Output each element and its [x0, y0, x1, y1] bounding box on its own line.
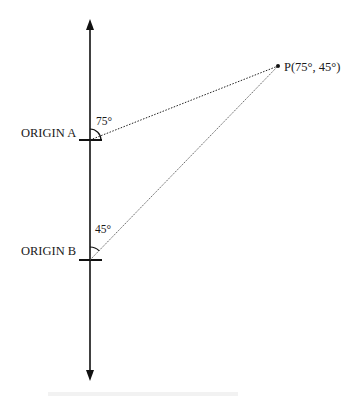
- sightline-a-to-p: [90, 66, 278, 140]
- point-p-dot: [276, 64, 280, 68]
- origin-a-angle-arc: [90, 129, 101, 140]
- arrow-down-icon: [86, 370, 94, 381]
- point-p: P(75°, 45°): [276, 60, 341, 74]
- faint-caption-remnant: [48, 392, 238, 396]
- sightline-b-to-p: [90, 66, 278, 260]
- origin-a-label: ORIGIN A: [21, 126, 76, 140]
- vertical-axis: [86, 19, 94, 381]
- origin-b: ORIGIN B 45°: [21, 223, 112, 260]
- origin-b-angle-arc: [90, 247, 99, 251]
- origin-a-angle-label: 75°: [96, 115, 113, 127]
- origin-b-angle-label: 45°: [95, 223, 112, 235]
- arrow-up-icon: [86, 19, 94, 30]
- bearing-diagram: ORIGIN A 75° ORIGIN B 45° P(75°, 45°): [0, 0, 358, 398]
- origin-b-label: ORIGIN B: [21, 244, 76, 258]
- point-p-label: P(75°, 45°): [284, 60, 341, 74]
